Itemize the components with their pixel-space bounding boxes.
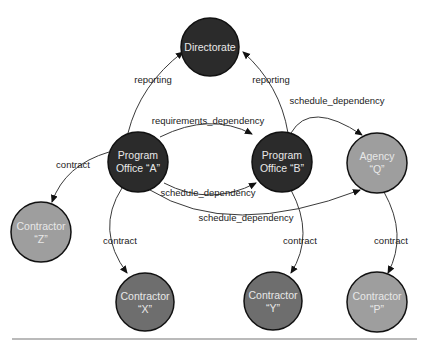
edge-label-schedule-dependency-a-q: schedule_dependency <box>198 212 293 223</box>
node-contractor-y: Contractor “Y” <box>244 272 302 330</box>
edge-label-contract-z: contract <box>56 159 90 170</box>
node-contractor-p: Contractor “P” <box>347 272 407 332</box>
node-contractor-x-line2: “X” <box>138 303 153 315</box>
node-contractor-x-line1: Contractor <box>120 290 170 302</box>
edge-label-reporting-a: reporting <box>134 74 172 85</box>
edge-contract-a-x <box>110 188 127 273</box>
edge-label-contract-x: contract <box>103 235 137 246</box>
node-contractor-p-line1: Contractor <box>352 290 402 302</box>
node-directorate-label: Directorate <box>184 41 236 53</box>
edge-label-schedule-dependency-b-q: schedule_dependency <box>289 95 384 106</box>
node-contractor-z-line1: Contractor <box>16 220 66 232</box>
node-agency-q-line2: “Q” <box>369 163 385 175</box>
node-contractor-y-line1: Contractor <box>248 289 298 301</box>
edge-contract-b-y <box>291 190 303 273</box>
edge-label-reporting-b: reporting <box>252 74 290 85</box>
node-program-office-a-line1: Program <box>118 149 159 161</box>
node-agency-q: Agency “Q” <box>347 133 407 193</box>
node-program-office-b: Program Office “B” <box>252 132 312 192</box>
node-contractor-p-line2: “P” <box>370 303 385 315</box>
node-directorate: Directorate <box>181 18 239 76</box>
edge-schedule-dependency-b-q <box>291 117 362 135</box>
edge-label-requirements-dependency: requirements_dependency <box>152 115 265 126</box>
edge-label-schedule-dependency-a-b: schedule_dependency <box>160 187 255 198</box>
node-program-office-b-line2: Office “B” <box>260 162 305 174</box>
node-contractor-y-line2: “Y” <box>266 302 281 314</box>
node-contractor-z-line2: “Z” <box>34 233 48 245</box>
edge-contract-q-p <box>384 192 397 273</box>
node-contractor-z: Contractor “Z” <box>11 202 71 262</box>
node-program-office-a: Program Office “A” <box>108 132 168 192</box>
node-agency-q-line1: Agency <box>359 150 395 162</box>
node-program-office-a-line2: Office “A” <box>116 162 161 174</box>
node-contractor-x: Contractor “X” <box>116 273 174 331</box>
org-dependency-diagram: reporting reporting requirements_depende… <box>0 0 421 345</box>
node-program-office-b-line1: Program <box>262 149 303 161</box>
edge-label-contract-p: contract <box>374 235 408 246</box>
edge-label-contract-y: contract <box>283 235 317 246</box>
